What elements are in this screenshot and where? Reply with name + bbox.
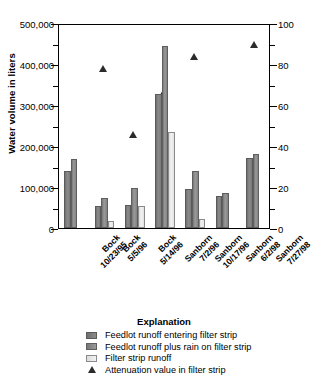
y-axis-right-tick-label: 100 bbox=[278, 19, 294, 30]
legend-item-attenuation-value: Attenuation value in filter strip bbox=[0, 365, 328, 375]
y-axis-right-tick-label: 0 bbox=[278, 224, 283, 235]
y-axis-left-tick-label: 200,000 bbox=[20, 142, 54, 153]
series-2-swatch-icon bbox=[86, 355, 97, 362]
y-axis-left-minor-tick bbox=[53, 209, 58, 210]
bar-series-1-category-2 bbox=[131, 188, 138, 228]
bar-series-2-category-1 bbox=[108, 221, 115, 228]
y-axis-right-tick bbox=[270, 229, 277, 230]
legend-item-feedlot-runoff-plus-rain: Feedlot runoff plus rain on filter strip bbox=[0, 342, 328, 352]
bar-series-1-category-6 bbox=[253, 154, 260, 228]
y-axis-right-minor-tick bbox=[270, 45, 275, 46]
bar-series-0-category-4 bbox=[185, 189, 192, 228]
legend-item-label: Feedlot runoff plus rain on filter strip bbox=[105, 342, 251, 352]
bar-series-1-category-1 bbox=[101, 198, 108, 228]
legend-item-label: Filter strip runoff bbox=[105, 353, 171, 363]
y-axis-left-minor-tick bbox=[53, 45, 58, 46]
plot-area bbox=[58, 24, 270, 229]
legend-item-label: Feedlot runoff entering filter strip bbox=[105, 330, 237, 340]
attenuation-marker-category-4 bbox=[190, 53, 198, 60]
y-axis-left-minor-tick bbox=[53, 168, 58, 169]
series-0-swatch-icon bbox=[86, 332, 97, 339]
x-axis-category-label-2: Bock5/14/96 bbox=[151, 233, 185, 267]
bar-series-1-category-3 bbox=[162, 46, 169, 228]
x-axis-category-label-6: Sanborn7/27/98 bbox=[274, 233, 312, 271]
y-axis-left-tick-label: 500,000 bbox=[20, 19, 54, 30]
y-axis-left-title: Water volume in liters bbox=[6, 29, 17, 179]
legend-item-label: Attenuation value in filter strip bbox=[105, 365, 226, 375]
legend-item-feedlot-runoff-entering: Feedlot runoff entering filter strip bbox=[0, 330, 328, 340]
y-axis-right-tick bbox=[270, 106, 277, 107]
bar-series-0-category-0 bbox=[64, 171, 71, 228]
bar-series-1-category-5 bbox=[222, 193, 229, 228]
bar-series-1-category-0 bbox=[71, 159, 78, 228]
bar-series-1-category-4 bbox=[192, 171, 199, 228]
attenuation-marker-category-2 bbox=[129, 131, 137, 138]
y-axis-right-minor-tick bbox=[270, 86, 275, 87]
bar-series-2-category-3 bbox=[168, 132, 175, 228]
bar-series-0-category-2 bbox=[125, 205, 132, 228]
y-axis-right-tick bbox=[270, 65, 277, 66]
bar-series-0-category-5 bbox=[216, 196, 223, 228]
attenuation-marker-category-1 bbox=[99, 65, 107, 72]
y-axis-right-tick-label: 80 bbox=[278, 60, 289, 71]
bar-series-2-category-2 bbox=[138, 206, 145, 228]
y-axis-right-minor-tick bbox=[270, 168, 275, 169]
y-axis-right-tick-label: 60 bbox=[278, 101, 289, 112]
bar-series-0-category-6 bbox=[246, 158, 253, 228]
y-axis-left-minor-tick bbox=[53, 86, 58, 87]
y-axis-right-tick bbox=[270, 147, 277, 148]
attenuation-triangle-marker-icon bbox=[86, 366, 97, 373]
x-axis-category-label-4: Sanborn10/17/96 bbox=[213, 233, 251, 271]
plot-inner bbox=[59, 25, 269, 228]
bar-series-0-category-3 bbox=[155, 94, 162, 228]
x-axis-category-label-5: Sanborn6/2/98 bbox=[244, 233, 282, 271]
y-axis-left-tick-label: 0 bbox=[49, 224, 54, 235]
y-axis-right-tick bbox=[270, 24, 277, 25]
chart-legend: Explanation Feedlot runoff entering filt… bbox=[0, 316, 328, 376]
series-1-swatch-icon bbox=[86, 343, 97, 350]
attenuation-marker-category-6 bbox=[250, 41, 258, 48]
y-axis-right-tick-label: 40 bbox=[278, 142, 289, 153]
y-axis-right-minor-tick bbox=[270, 209, 275, 210]
y-axis-left-tick-label: 100,000 bbox=[20, 183, 54, 194]
y-axis-right-tick bbox=[270, 188, 277, 189]
y-axis-left-tick-label: 300,000 bbox=[20, 101, 54, 112]
chart-container: Water volume in liters Attenuation value… bbox=[0, 0, 328, 382]
y-axis-left-minor-tick bbox=[53, 127, 58, 128]
y-axis-right-minor-tick bbox=[270, 127, 275, 128]
y-axis-left-tick-label: 400,000 bbox=[20, 60, 54, 71]
legend-title: Explanation bbox=[0, 316, 328, 327]
bar-series-0-category-1 bbox=[95, 206, 102, 228]
bar-series-2-category-4 bbox=[199, 219, 206, 228]
x-axis-category-label-1: Bock5/5/96 bbox=[119, 233, 149, 263]
legend-item-filter-strip-runoff: Filter strip runoff bbox=[0, 353, 328, 363]
y-axis-right-tick-label: 20 bbox=[278, 183, 289, 194]
